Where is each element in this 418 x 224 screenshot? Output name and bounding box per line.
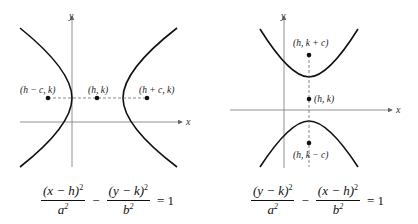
left-term1: (x − h)2 a2 [41,183,85,218]
right-figure: x y (h, k + c) (h, k) (h, k − c) [230,10,401,168]
minus-operator: − [301,193,308,209]
focus-top-point [307,53,312,58]
exponent: 2 [274,202,278,211]
term1-numerator: (y − k) [253,183,288,198]
term2-numerator: (y − k) [109,183,144,198]
focus-left-point [46,96,51,101]
equals-one: = 1 [157,193,174,209]
right-equation: (y − k)2 a2 − (x − h)2 b2 = 1 [248,183,388,218]
term2-numerator: (x − h) [318,183,354,198]
term1-numerator: (x − h) [43,183,79,198]
x-axis-label: x [185,116,191,127]
exponent: 2 [64,202,68,211]
hyperbola-right-branch [123,28,177,167]
exponent: 2 [354,183,358,192]
focus-left-label: (h − c, k) [20,85,55,96]
exponent: 2 [130,202,134,211]
y-axis-label: y [280,10,286,21]
y-axis-label: y [68,10,74,21]
equals-one: = 1 [367,193,384,209]
exponent: 2 [79,183,83,192]
exponent: 2 [288,183,292,192]
right-term2: (x − h)2 b2 [316,183,360,218]
center-point [307,97,312,102]
focus-bottom-label: (h, k − c) [293,150,328,161]
focus-bottom-point [307,141,312,146]
minus-operator: − [92,193,99,209]
focus-top-label: (h, k + c) [293,38,328,49]
center-point [95,96,100,101]
exponent: 2 [339,202,343,211]
focus-right-label: (h + c, k) [139,85,174,96]
right-term1: (y − k)2 a2 [251,183,294,218]
left-term2: (y − k)2 b2 [107,183,150,218]
x-axis-label: x [395,104,401,115]
exponent: 2 [144,183,148,192]
left-figure: x y (h − c, k) (h, k) (h + c, k) [20,10,191,167]
focus-right-point [145,96,150,101]
center-label: (h, k) [314,94,334,105]
center-label: (h, k) [88,85,108,96]
left-equation: (x − h)2 a2 − (y − k)2 b2 = 1 [38,183,178,218]
